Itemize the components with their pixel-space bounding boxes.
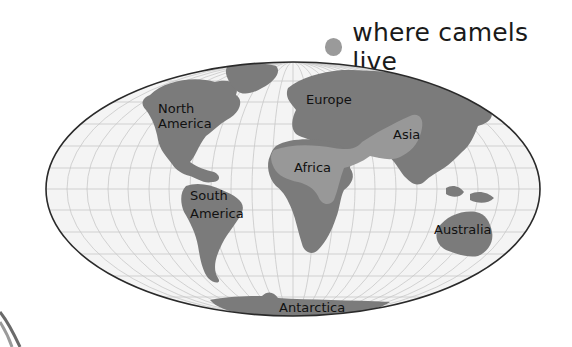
label-australia: Australia bbox=[434, 222, 492, 237]
label-south-america-line2: America bbox=[190, 206, 244, 221]
label-europe: Europe bbox=[306, 92, 352, 107]
world-map: North America Europe Asia Africa South A… bbox=[0, 0, 572, 347]
label-asia: Asia bbox=[393, 127, 420, 142]
label-south-america-line1: South bbox=[190, 188, 228, 203]
label-north-america-line2: America bbox=[158, 116, 212, 131]
label-africa: Africa bbox=[294, 160, 331, 175]
label-antarctica: Antarctica bbox=[279, 300, 345, 315]
label-north-america-line1: North bbox=[158, 101, 194, 116]
